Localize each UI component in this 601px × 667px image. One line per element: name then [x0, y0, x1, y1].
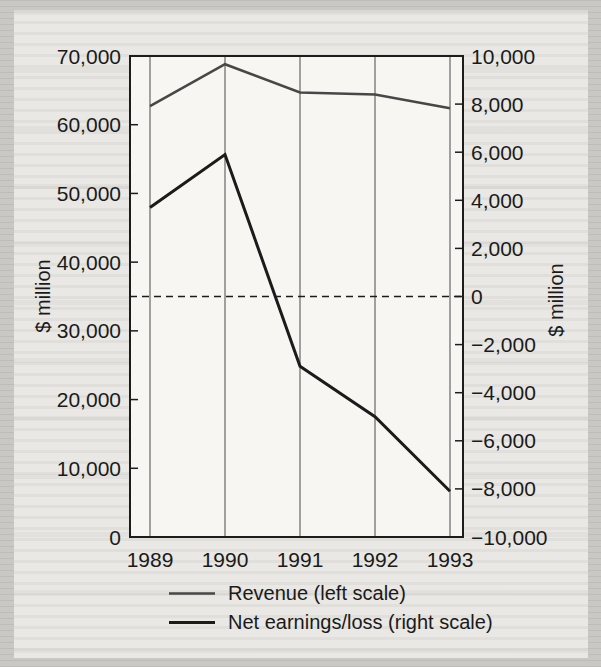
- right-axis-tick-label: 6,000: [471, 141, 524, 164]
- left-axis-tick-label: 70,000: [57, 45, 121, 68]
- x-axis-tick-label: 1989: [127, 548, 174, 571]
- right-axis-tick-label: 4,000: [471, 189, 524, 212]
- left-axis-tick-label: 10,000: [57, 457, 121, 480]
- right-axis-title: $ million: [545, 263, 568, 336]
- left-axis-tick-label: 0: [109, 526, 121, 549]
- right-axis-tick-label: −8,000: [471, 477, 536, 500]
- right-axis-tick-label: −6,000: [471, 429, 536, 452]
- right-axis-tick-label: 0: [471, 285, 483, 308]
- right-axis-tick-label: −10,000: [471, 526, 548, 549]
- legend-label-revenue: Revenue (left scale): [228, 582, 406, 605]
- revenue-line-swatch-icon: [168, 590, 216, 597]
- right-axis-tick-label: 2,000: [471, 237, 524, 260]
- x-axis-tick-label: 1993: [427, 548, 474, 571]
- right-axis-tick-label: −2,000: [471, 333, 536, 356]
- right-axis-tick-label: 10,000: [471, 45, 535, 68]
- left-axis-tick-label: 20,000: [57, 388, 121, 411]
- right-axis-tick-label: −4,000: [471, 381, 536, 404]
- legend: Revenue (left scale) Net earnings/loss (…: [168, 582, 493, 634]
- x-axis-tick-label: 1990: [202, 548, 249, 571]
- dual-axis-line-chart: 010,00020,00030,00040,00050,00060,00070,…: [0, 0, 601, 667]
- right-axis-tick-label: 8,000: [471, 93, 524, 116]
- left-axis-tick-label: 50,000: [57, 182, 121, 205]
- left-axis-tick-label: 30,000: [57, 319, 121, 342]
- net-earnings-line-swatch-icon: [168, 619, 216, 626]
- left-axis-tick-label: 60,000: [57, 113, 121, 136]
- left-axis-title: $ million: [32, 259, 55, 332]
- legend-item-net-earnings: Net earnings/loss (right scale): [168, 611, 493, 634]
- x-axis-tick-label: 1992: [352, 548, 399, 571]
- legend-item-revenue: Revenue (left scale): [168, 582, 493, 605]
- legend-label-net-earnings: Net earnings/loss (right scale): [228, 611, 493, 634]
- left-axis-tick-label: 40,000: [57, 251, 121, 274]
- x-axis-tick-label: 1991: [277, 548, 324, 571]
